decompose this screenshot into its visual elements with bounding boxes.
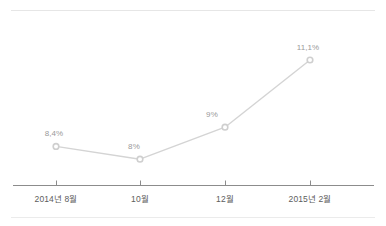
line-chart-figure: 8,4%8%9%11,1% 2014년 8월10월12월2015년 2월 (0, 0, 386, 226)
data-point-label: 11,1% (297, 43, 320, 52)
data-point-label: 9% (206, 110, 218, 119)
series-line (56, 60, 310, 159)
data-point-label: 8,4% (45, 129, 64, 138)
x-axis-ticks (57, 181, 311, 186)
x-axis (13, 181, 374, 186)
x-axis-tick-label: 2014년 8월 (35, 192, 78, 204)
data-point-marker[interactable] (137, 156, 143, 162)
series-markers (53, 57, 313, 162)
data-point-label: 8% (128, 142, 140, 151)
data-point-marker[interactable] (53, 144, 59, 150)
data-point-marker[interactable] (222, 124, 228, 130)
x-axis-tick-label: 10월 (131, 192, 149, 204)
x-axis-tick-label: 2015년 2월 (289, 192, 332, 204)
data-point-marker[interactable] (307, 57, 313, 63)
x-axis-tick-label: 12월 (216, 192, 234, 204)
